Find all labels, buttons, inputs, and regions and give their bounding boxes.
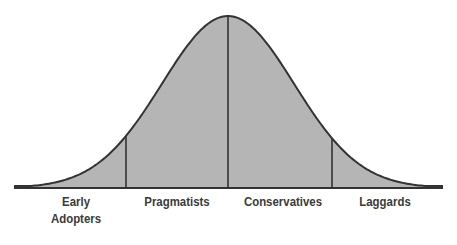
label-text: Conservatives (239, 193, 327, 210)
segment-label-laggards: Laggards (354, 193, 416, 210)
label-line-2: Adopters (50, 210, 103, 227)
label-text: Laggards (354, 193, 416, 210)
segment-label-early-adopters: Early Adopters (50, 193, 103, 227)
segment-label-conservatives: Conservatives (239, 193, 327, 210)
segment-label-pragmatists: Pragmatists (137, 193, 216, 210)
label-line-1: Early (50, 193, 103, 210)
label-text: Pragmatists (137, 193, 216, 210)
